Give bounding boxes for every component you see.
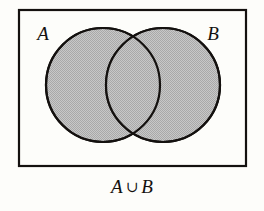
figure-caption: A∪B xyxy=(0,176,264,198)
caption-left-set: A xyxy=(111,176,123,197)
venn-diagram-canvas: A B xyxy=(0,0,264,176)
set-b-label: B xyxy=(207,23,219,44)
union-operator-symbol: ∪ xyxy=(123,179,142,195)
set-a-label: A xyxy=(35,23,49,44)
caption-right-set: B xyxy=(141,176,153,197)
venn-diagram-figure: A B A∪B xyxy=(0,0,264,211)
